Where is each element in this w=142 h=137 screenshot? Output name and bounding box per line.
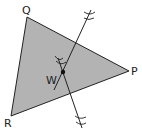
label-w: W <box>46 74 57 87</box>
point-w <box>61 70 65 74</box>
label-p: P <box>131 65 138 78</box>
label-q: Q <box>22 4 31 17</box>
label-r: R <box>4 117 12 130</box>
triangle-pqr <box>11 17 129 116</box>
triangle-diagram: Q P R W <box>0 0 142 137</box>
